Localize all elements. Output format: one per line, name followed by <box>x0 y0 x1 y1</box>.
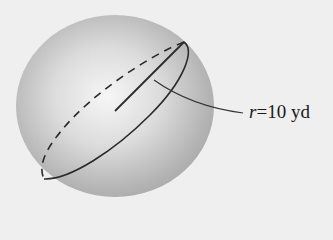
radius-label: r=10 yd <box>249 101 310 123</box>
equals-sign: = <box>256 101 267 122</box>
radius-value: 10 <box>267 101 286 122</box>
radius-unit: yd <box>291 101 310 122</box>
